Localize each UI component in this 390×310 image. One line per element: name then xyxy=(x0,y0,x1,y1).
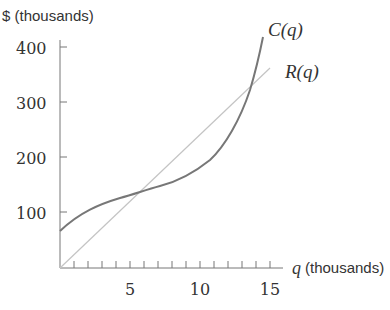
cost-curve-label: C(q) xyxy=(268,19,303,41)
x-axis-unit: (thousands) xyxy=(305,259,384,276)
x-ticks xyxy=(74,261,270,268)
x-tick-label-5: 5 xyxy=(125,280,135,299)
y-tick-label-400: 400 xyxy=(16,39,47,58)
x-axis-var: q xyxy=(292,258,301,278)
y-tick-label-100: 100 xyxy=(16,204,47,223)
y-axis-label: $ (thousands) xyxy=(2,7,94,24)
revenue-line xyxy=(60,68,270,268)
x-tick-label-15: 15 xyxy=(260,280,280,299)
chart: $ (thousands) 400 300 200 100 5 10 15 q … xyxy=(0,0,390,310)
x-tick-label-10: 10 xyxy=(190,280,210,299)
y-tick-label-200: 200 xyxy=(16,149,47,168)
revenue-line-label: R(q) xyxy=(284,61,319,83)
cost-curve xyxy=(60,37,263,231)
y-ticks xyxy=(60,47,67,212)
y-tick-label-300: 300 xyxy=(16,94,47,113)
